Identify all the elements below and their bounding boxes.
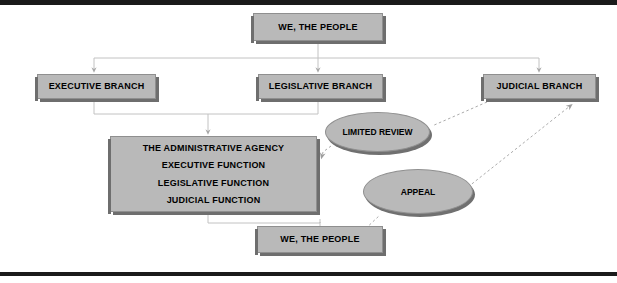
node-limited-review[interactable]: LIMITED REVIEW (325, 112, 430, 152)
node-appeal[interactable]: APPEAL (363, 169, 473, 214)
agency-line-legislative-function: LEGISLATIVE FUNCTION (158, 177, 269, 189)
node-label: WE, THE PEOPLE (278, 21, 357, 33)
agency-line-title: THE ADMINISTRATIVE AGENCY (143, 142, 285, 154)
node-legislative-branch[interactable]: LEGISLATIVE BRANCH (258, 74, 383, 99)
node-executive-branch[interactable]: EXECUTIVE BRANCH (37, 74, 156, 99)
node-label: WE, THE PEOPLE (280, 233, 359, 245)
edge-limited-review-to-agency (322, 146, 331, 156)
node-administrative-agency[interactable]: THE ADMINISTRATIVE AGENCY EXECUTIVE FUNC… (110, 136, 317, 212)
node-label: LIMITED REVIEW (343, 127, 413, 137)
top-divider-rule (0, 0, 617, 5)
edge-appeal-to-judicial (468, 106, 570, 187)
diagram-canvas: WE, THE PEOPLE EXECUTIVE BRANCH LEGISLAT… (0, 0, 617, 283)
edge-judicial-to-limited-review (432, 102, 487, 126)
agency-line-judicial-function: JUDICIAL FUNCTION (167, 194, 261, 206)
node-judicial-branch[interactable]: JUDICIAL BRANCH (483, 74, 596, 99)
agency-line-executive-function: EXECUTIVE FUNCTION (162, 159, 266, 171)
node-we-the-people-bottom[interactable]: WE, THE PEOPLE (257, 226, 383, 253)
node-label: EXECUTIVE BRANCH (49, 80, 145, 92)
node-label: LEGISLATIVE BRANCH (269, 80, 372, 92)
node-label: APPEAL (401, 187, 435, 197)
node-we-the-people-top[interactable]: WE, THE PEOPLE (253, 13, 383, 41)
bottom-divider-rule (0, 272, 617, 276)
node-label: JUDICIAL BRANCH (497, 80, 583, 92)
